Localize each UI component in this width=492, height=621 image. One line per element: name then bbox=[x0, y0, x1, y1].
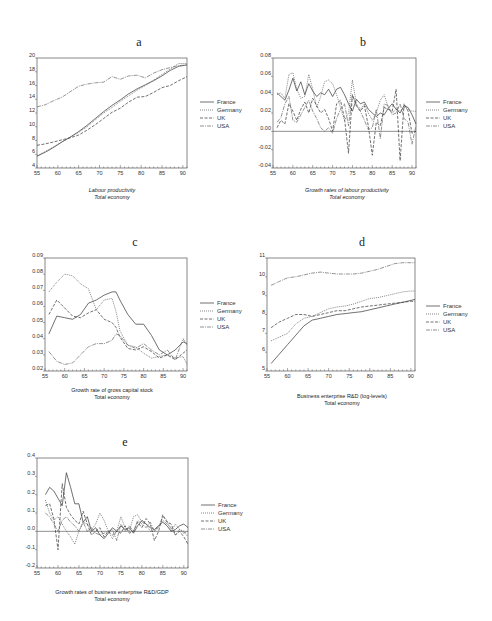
x-tick-label: 65 bbox=[76, 570, 82, 576]
chart-panel-b: b-0.04-0.020.000.020.040.060.08556065707… bbox=[258, 35, 467, 200]
chart-panel-c: c0.020.030.040.050.060.070.080.095560657… bbox=[32, 235, 241, 400]
x-tick-label: 60 bbox=[55, 570, 61, 576]
legend-label: UK bbox=[443, 115, 451, 121]
y-tick-label: 0.07 bbox=[32, 284, 43, 290]
series-line-france bbox=[49, 292, 187, 355]
y-tick-label: 0.3 bbox=[27, 470, 35, 476]
x-tick-label: 60 bbox=[62, 373, 68, 379]
series-line-france bbox=[37, 65, 187, 156]
y-tick-label: 0.04 bbox=[32, 333, 43, 339]
x-tick-label: 90 bbox=[409, 170, 415, 176]
series-line-uk bbox=[49, 300, 187, 360]
chart-panel-a: a4681012141618205560657075808590FranceGe… bbox=[29, 35, 242, 200]
y-tick-label: -0.1 bbox=[26, 544, 35, 550]
panel-title: b bbox=[360, 35, 366, 49]
y-tick-label: 0.05 bbox=[32, 317, 43, 323]
y-tick-label: 8 bbox=[32, 135, 35, 141]
x-tick-label: 90 bbox=[180, 373, 186, 379]
y-tick-label: 4 bbox=[32, 162, 35, 168]
x-tick-label: 85 bbox=[387, 373, 393, 379]
x-tick-label: 75 bbox=[118, 570, 124, 576]
x-tick-label: 90 bbox=[181, 570, 187, 576]
x-tick-label: 55 bbox=[34, 570, 40, 576]
x-tick-label: 55 bbox=[264, 373, 270, 379]
legend-label: France bbox=[217, 99, 236, 105]
y-tick-label: 0.06 bbox=[260, 70, 271, 76]
series-line-uk bbox=[37, 77, 187, 146]
x-tick-label: 85 bbox=[160, 373, 166, 379]
legend-label: Germany bbox=[218, 510, 243, 516]
x-tick-label: 65 bbox=[310, 170, 316, 176]
x-tick-label: 90 bbox=[408, 373, 414, 379]
y-tick-label: 0.2 bbox=[27, 489, 35, 495]
series-line-uk bbox=[271, 301, 415, 327]
y-tick-label: 0.4 bbox=[27, 452, 35, 458]
legend-label: UK bbox=[443, 319, 451, 325]
legend-label: France bbox=[217, 300, 236, 306]
x-tick-label: 70 bbox=[101, 373, 107, 379]
legend-label: USA bbox=[218, 526, 230, 532]
x-tick-label: 75 bbox=[349, 170, 355, 176]
series-line-germany bbox=[49, 274, 187, 364]
legend-label: USA bbox=[217, 324, 229, 330]
y-tick-label: 0.03 bbox=[32, 349, 43, 355]
legend-label: Germany bbox=[443, 107, 468, 113]
series-line-usa bbox=[45, 513, 188, 541]
legend-label: UK bbox=[217, 115, 225, 121]
chart-caption: Total economy bbox=[94, 596, 130, 602]
x-tick-label: 80 bbox=[139, 570, 145, 576]
plot-frame bbox=[273, 58, 416, 168]
x-tick-label: 55 bbox=[42, 373, 48, 379]
chart-panel-d: d5678910115560657075808590FranceGermanyU… bbox=[259, 235, 468, 406]
x-tick-label: 75 bbox=[346, 373, 352, 379]
y-tick-label: -0.04 bbox=[258, 162, 271, 168]
y-tick-label: 7 bbox=[262, 327, 265, 333]
y-tick-label: -0.02 bbox=[258, 144, 271, 150]
y-tick-label: 0.1 bbox=[27, 507, 35, 513]
x-tick-label: 60 bbox=[290, 170, 296, 176]
chart-caption: Business enterprise R&D (log-levels) bbox=[297, 393, 387, 399]
y-tick-label: 11 bbox=[259, 252, 265, 258]
y-tick-label: 0.08 bbox=[260, 52, 271, 58]
x-tick-label: 75 bbox=[117, 170, 123, 176]
legend-label: Germany bbox=[217, 308, 242, 314]
x-tick-label: 55 bbox=[34, 170, 40, 176]
x-tick-label: 80 bbox=[138, 170, 144, 176]
chart-caption: Labour productivity bbox=[89, 187, 137, 193]
chart-caption: Total economy bbox=[324, 400, 360, 406]
x-tick-label: 75 bbox=[121, 373, 127, 379]
chart-caption: Total economy bbox=[94, 394, 130, 400]
x-tick-label: 90 bbox=[180, 170, 186, 176]
chart-caption: Growth rates of business enterprise R&D/… bbox=[55, 589, 169, 595]
legend-label: France bbox=[218, 502, 237, 508]
chart-caption: Growth rate of gross capital stock bbox=[71, 387, 153, 393]
y-tick-label: 0.00 bbox=[260, 125, 271, 131]
series-line-usa bbox=[271, 263, 415, 286]
y-tick-label: 6 bbox=[262, 346, 265, 352]
x-tick-label: 60 bbox=[55, 170, 61, 176]
x-tick-label: 80 bbox=[369, 170, 375, 176]
x-tick-label: 65 bbox=[305, 373, 311, 379]
x-tick-label: 70 bbox=[326, 373, 332, 379]
y-tick-label: -0.2 bbox=[26, 562, 35, 568]
series-line-germany bbox=[37, 64, 187, 156]
series-line-france bbox=[45, 473, 188, 539]
y-tick-label: 16 bbox=[29, 80, 35, 86]
y-tick-label: 20 bbox=[29, 52, 35, 58]
plot-frame bbox=[37, 458, 188, 568]
legend-label: UK bbox=[218, 518, 226, 524]
x-tick-label: 80 bbox=[367, 373, 373, 379]
y-tick-label: 12 bbox=[29, 107, 35, 113]
series-line-france bbox=[271, 299, 415, 363]
x-tick-label: 65 bbox=[76, 170, 82, 176]
x-tick-label: 80 bbox=[141, 373, 147, 379]
y-tick-label: 18 bbox=[29, 66, 35, 72]
figure-canvas: a4681012141618205560657075808590FranceGe… bbox=[0, 0, 492, 621]
y-tick-label: 8 bbox=[262, 309, 265, 315]
y-tick-label: 0.0 bbox=[27, 525, 35, 531]
x-tick-label: 70 bbox=[97, 570, 103, 576]
y-tick-label: 9 bbox=[262, 290, 265, 296]
series-line-usa bbox=[49, 334, 187, 365]
panel-title: c bbox=[132, 235, 137, 249]
y-tick-label: 10 bbox=[259, 271, 265, 277]
